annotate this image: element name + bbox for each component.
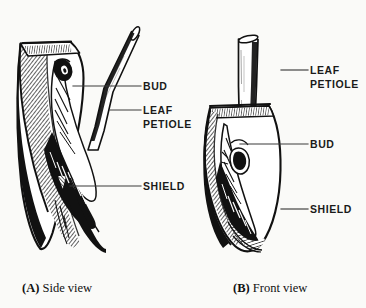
bud-shield-illustration — [0, 0, 366, 308]
figure-root: BUD LEAF PETIOLE SHIELD LEAF PETIOLE BUD… — [0, 0, 366, 308]
side-view-petiole — [88, 25, 141, 150]
side-view-drawing — [17, 25, 141, 253]
front-view-drawing — [203, 34, 280, 253]
front-view-shield-body — [203, 104, 280, 252]
